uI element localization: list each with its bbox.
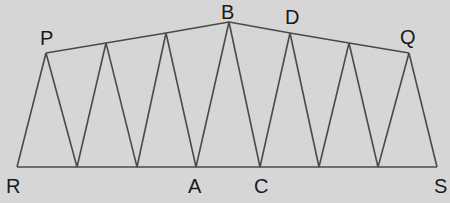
web-member bbox=[260, 33, 290, 167]
web-member bbox=[17, 53, 46, 167]
web-member bbox=[166, 33, 196, 167]
web-member bbox=[319, 43, 349, 167]
vertex-label-r: R bbox=[6, 176, 20, 196]
top-chord-segment bbox=[166, 22, 229, 33]
web-member bbox=[290, 33, 319, 167]
top-chord-segment bbox=[46, 43, 106, 53]
web-member bbox=[349, 43, 378, 167]
web-member bbox=[378, 53, 409, 167]
web-member bbox=[77, 43, 106, 167]
vertex-label-b: B bbox=[221, 2, 234, 22]
top-chord-segment bbox=[229, 22, 290, 33]
vertex-label-d: D bbox=[285, 7, 299, 27]
web-member bbox=[409, 53, 437, 167]
truss-diagram bbox=[0, 0, 450, 203]
vertex-label-p: P bbox=[40, 28, 53, 48]
vertex-label-a: A bbox=[188, 176, 201, 196]
top-chord-segment bbox=[290, 33, 349, 43]
web-member bbox=[106, 43, 137, 167]
top-chord-segment bbox=[106, 33, 166, 43]
web-member bbox=[46, 53, 77, 167]
vertex-label-c: C bbox=[254, 176, 268, 196]
web-member bbox=[229, 22, 260, 167]
vertex-label-s: S bbox=[434, 176, 447, 196]
web-member bbox=[196, 22, 229, 167]
web-member bbox=[137, 33, 166, 167]
vertex-label-q: Q bbox=[400, 27, 416, 47]
